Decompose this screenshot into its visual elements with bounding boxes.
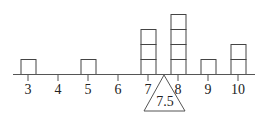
dot-plot-diagram: 345678910 7.5: [0, 0, 264, 120]
data-box: [231, 60, 246, 75]
tick-label: 5: [85, 82, 92, 97]
data-box: [21, 60, 36, 75]
tick-label: 7: [145, 82, 152, 97]
data-box: [171, 15, 186, 30]
data-box: [171, 60, 186, 75]
data-box: [141, 60, 156, 75]
tick-label: 9: [205, 82, 212, 97]
axis-ticks: [28, 74, 238, 81]
data-box: [201, 60, 216, 75]
tick-label: 6: [115, 82, 122, 97]
tick-labels: 345678910: [25, 82, 246, 97]
tick-label: 4: [55, 82, 62, 97]
data-box: [141, 30, 156, 45]
balance-point-label: 7.5: [156, 94, 174, 109]
data-box: [171, 30, 186, 45]
data-box: [81, 60, 96, 75]
data-box: [231, 45, 246, 60]
data-box: [141, 45, 156, 60]
tick-label: 10: [231, 82, 245, 97]
data-box: [171, 45, 186, 60]
tick-label: 3: [25, 82, 32, 97]
stacked-boxes: [21, 15, 246, 75]
